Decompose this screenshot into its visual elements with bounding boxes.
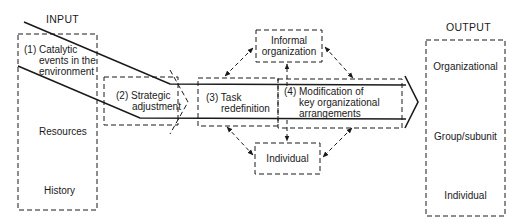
arrow-informal-task bbox=[225, 48, 253, 76]
output-organizational: Organizational bbox=[426, 61, 505, 72]
arrow-individual-task bbox=[227, 127, 253, 155]
mod-line1: (4) Modification of bbox=[284, 86, 380, 97]
catalytic-line2: events in the bbox=[24, 55, 96, 66]
individual-influence-label: Individual bbox=[255, 153, 320, 164]
catalytic-line1: (1) Catalytic bbox=[24, 44, 96, 55]
history-label: History bbox=[44, 185, 75, 196]
input-header: INPUT bbox=[46, 14, 79, 25]
informal-organization-label: Informal organization bbox=[256, 35, 322, 57]
strategic-line2: adjustment bbox=[116, 101, 181, 112]
catalytic-line3: environment bbox=[24, 66, 96, 77]
mod-line3: arrangements bbox=[284, 108, 380, 119]
output-individual: Individual bbox=[426, 190, 505, 201]
resources-label: Resources bbox=[39, 126, 87, 137]
task-line2: redefinition bbox=[206, 103, 270, 114]
informal-line1: Informal bbox=[256, 35, 322, 46]
informal-line2: organization bbox=[256, 46, 322, 57]
task-line1: (3) Task bbox=[206, 92, 270, 103]
catalytic-events-label: (1) Catalytic events in the environment bbox=[24, 44, 96, 77]
arrow-informal-mod bbox=[325, 47, 353, 78]
output-header: OUTPUT bbox=[446, 22, 491, 33]
strategic-adjustment-label: (2) Strategic adjustment bbox=[116, 90, 181, 112]
output-group-subunit: Group/subunit bbox=[426, 131, 505, 142]
mod-line2: key organizational bbox=[284, 97, 380, 108]
arrow-individual-mod bbox=[323, 128, 352, 157]
strategic-line1: (2) Strategic bbox=[116, 90, 181, 101]
modification-label: (4) Modification of key organizational a… bbox=[284, 86, 380, 119]
flow-arrow-head bbox=[405, 76, 418, 128]
task-redefinition-label: (3) Task redefinition bbox=[206, 92, 270, 114]
